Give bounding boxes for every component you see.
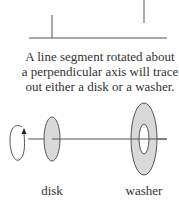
washer-label: washer — [114, 183, 174, 199]
diagram-canvas — [0, 0, 179, 207]
caption-line-2: a perpendicular axis will trace — [18, 64, 179, 79]
disk-label: disk — [22, 183, 82, 199]
caption-line-1: A line segment rotated about — [18, 49, 179, 64]
arrowhead-icon — [22, 128, 27, 134]
caption-line-3: out either a disk or a washer. — [18, 79, 179, 94]
caption: A line segment rotated about a perpendic… — [18, 49, 179, 94]
rotation-arrow-icon — [10, 125, 24, 160]
